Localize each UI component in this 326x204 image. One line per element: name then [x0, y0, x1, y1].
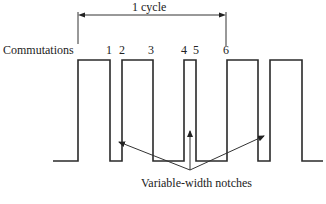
diagram-svg	[0, 0, 326, 204]
notch-pointer-arrows	[119, 131, 264, 170]
commutation-number-5: 5	[193, 44, 199, 56]
commutation-number-4: 4	[181, 44, 187, 56]
arrow-to-notch-1	[119, 142, 190, 170]
commutation-number-1: 1	[106, 44, 112, 56]
commutation-number-2: 2	[119, 44, 125, 56]
switching-waveform	[53, 60, 323, 161]
pwm-notch-diagram: 1 cycle Commutations 1 2 3 4 5 6 Variabl…	[0, 0, 326, 204]
cycle-label: 1 cycle	[132, 1, 166, 13]
commutation-number-3: 3	[148, 44, 154, 56]
commutations-label: Commutations	[3, 44, 74, 56]
arrowhead-right-icon	[219, 13, 226, 18]
arrowhead-left-icon	[78, 13, 85, 18]
notches-label: Variable-width notches	[141, 177, 252, 189]
commutation-number-6: 6	[223, 44, 229, 56]
cycle-dimension	[78, 12, 226, 46]
